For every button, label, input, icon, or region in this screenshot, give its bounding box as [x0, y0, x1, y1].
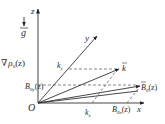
- y-axis: y: [38, 33, 97, 103]
- k-vector-label: k: [122, 63, 127, 73]
- density-gradient-label: ∇ρ0(z): [1, 58, 25, 69]
- x-axis-label: x: [136, 104, 141, 114]
- k-x-projection: [92, 71, 116, 103]
- k-y-component-label: ky: [57, 61, 64, 71]
- z-axis-label: z: [30, 6, 35, 16]
- gravity-indicator: g: [20, 17, 28, 38]
- k-vector: k: [38, 63, 127, 103]
- origin-label: O: [28, 102, 35, 113]
- k-x-component-label: kx: [85, 108, 92, 118]
- b0-y-component-label: B0y(z): [25, 82, 44, 92]
- b0-x-component-label: B0x(z): [112, 105, 131, 115]
- gravity-label: g: [21, 27, 26, 38]
- wave-vector-magnetic-field-diagram: z g ∇ρ0(z) y x O k B0(z) ky B: [0, 0, 165, 124]
- b0-vector-label: B0(z): [141, 83, 158, 93]
- y-axis-label: y: [84, 33, 89, 43]
